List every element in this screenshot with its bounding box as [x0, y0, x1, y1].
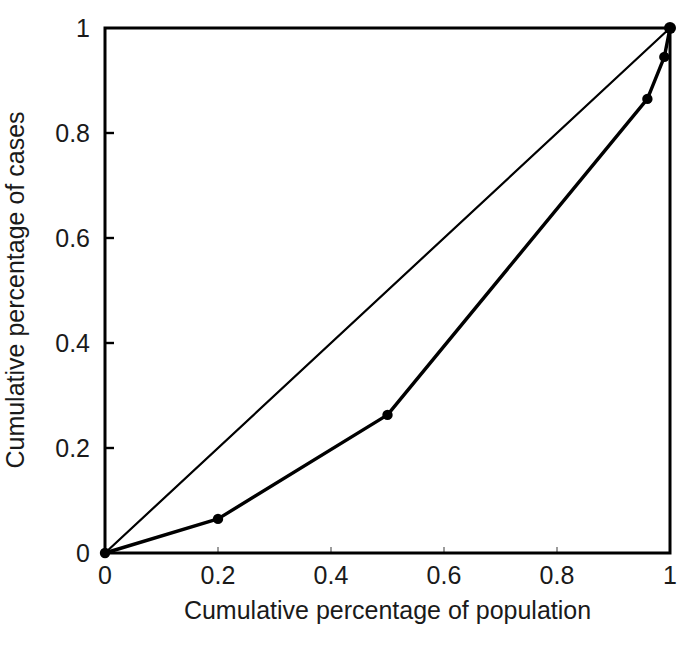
- y-axis-label: Cumulative percentage of cases: [1, 28, 35, 553]
- y-tick-label-0.4: 0.4: [30, 331, 90, 356]
- data-point-marker: [664, 22, 676, 34]
- chart-figure: 1 0.8 0.6 0.4 0.2 0 0 0.2 0.4 0.6 0.8 1 …: [0, 0, 697, 647]
- x-axis-label: Cumulative percentage of population: [105, 596, 670, 625]
- data-point-marker: [382, 410, 392, 420]
- x-tick-label-0.4: 0.4: [301, 563, 361, 588]
- data-point-marker: [642, 94, 652, 104]
- x-tick-label-1: 1: [640, 563, 697, 588]
- x-tick-label-0.8: 0.8: [527, 563, 587, 588]
- y-tick-label-0.8: 0.8: [30, 121, 90, 146]
- data-point-marker: [659, 52, 669, 62]
- data-point-marker: [213, 514, 223, 524]
- x-tick-label-0.6: 0.6: [414, 563, 474, 588]
- y-tick-label-0.2: 0.2: [30, 436, 90, 461]
- lorenz-curve-plot: [0, 0, 697, 647]
- data-point-marker: [100, 548, 110, 558]
- y-tick-label-0.6: 0.6: [30, 226, 90, 251]
- x-tick-label-0: 0: [75, 563, 135, 588]
- y-tick-label-1: 1: [42, 16, 90, 41]
- x-tick-label-0.2: 0.2: [188, 563, 248, 588]
